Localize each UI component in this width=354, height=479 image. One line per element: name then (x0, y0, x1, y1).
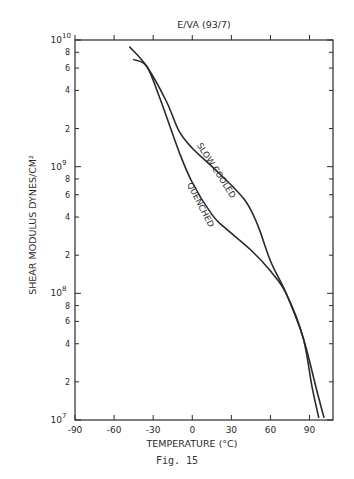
y-minor-label: 6 (65, 317, 70, 326)
y-minor-label: 6 (65, 64, 70, 73)
figure-caption: Fig. 15 (0, 455, 354, 466)
y-minor-label: 6 (65, 191, 70, 200)
x-axis-label: TEMPERATURE (°C) (146, 438, 238, 449)
chart-title: E/VA (93/7) (177, 19, 230, 30)
y-minor-label: 4 (65, 340, 70, 349)
y-minor-label: 8 (65, 48, 70, 57)
x-tick-label: -60 (107, 425, 122, 435)
y-major-label: 10 (51, 288, 63, 298)
y-major-exponent: 9 (62, 159, 66, 167)
plot-frame (75, 40, 333, 420)
y-major-exponent: 10 (62, 32, 71, 40)
annotation-quenched: QUENCHED (185, 181, 216, 230)
chart-figure: -90-60-300306090246824682468107108109101… (0, 0, 354, 479)
plot-curves (130, 47, 324, 417)
y-minor-label: 4 (65, 86, 70, 95)
x-tick-label: 90 (304, 425, 316, 435)
y-minor-label: 2 (65, 125, 70, 134)
plot-labels: -90-60-300306090246824682468107108109101… (27, 19, 316, 449)
y-minor-label: 8 (65, 302, 70, 311)
y-major-exponent: 8 (62, 285, 66, 293)
x-tick-label: 30 (226, 425, 238, 435)
y-minor-label: 8 (65, 175, 70, 184)
annotation-slow-cooled: SLOW COOLED (195, 141, 238, 200)
y-axis-label: SHEAR MODULUS DYNES/CM² (27, 155, 38, 295)
plot-axes (75, 35, 333, 420)
x-tick-label: 60 (265, 425, 277, 435)
y-minor-label: 2 (65, 378, 70, 387)
y-major-label: 10 (51, 162, 63, 172)
x-tick-label: -30 (146, 425, 161, 435)
y-minor-label: 4 (65, 213, 70, 222)
series-quenched (134, 60, 319, 418)
y-minor-label: 2 (65, 251, 70, 260)
y-major-exponent: 7 (62, 412, 66, 420)
x-tick-label: 0 (189, 425, 195, 435)
y-major-label: 10 (51, 35, 63, 45)
x-tick-label: -90 (68, 425, 83, 435)
series-slow-cooled (130, 47, 324, 417)
y-major-label: 10 (51, 415, 63, 425)
